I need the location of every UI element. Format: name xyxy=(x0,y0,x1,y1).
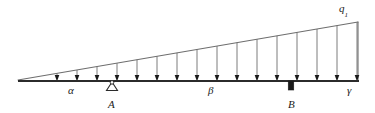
segment-label-alpha: α xyxy=(68,85,74,96)
load-hypotenuse-line xyxy=(18,22,358,80)
support-label-a: A xyxy=(108,99,115,110)
load-intensity-label: q1 xyxy=(339,3,348,17)
beam-load-figure: q1 α β γ A B xyxy=(0,0,375,113)
figure-canvas xyxy=(0,0,375,113)
block-support-b xyxy=(288,81,294,90)
load-intensity-symbol: q xyxy=(339,2,345,14)
load-intensity-subscript: 1 xyxy=(345,11,349,19)
segment-label-gamma: γ xyxy=(347,85,351,96)
load-arrow-group xyxy=(55,22,360,81)
block-support-icon xyxy=(288,81,294,90)
load-envelope-group xyxy=(18,22,358,81)
support-label-b: B xyxy=(288,99,295,110)
segment-label-beta: β xyxy=(208,85,213,96)
pin-support-hinge-icon xyxy=(110,81,114,85)
